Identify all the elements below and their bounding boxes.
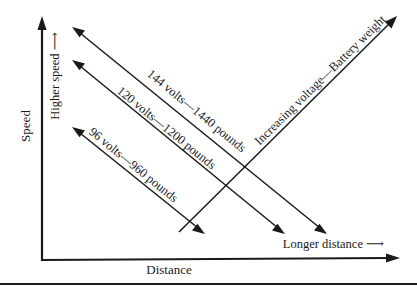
line-144-label: 144 volts—1440 pounds (144, 67, 248, 155)
x-axis-label: Distance (146, 262, 192, 277)
line-144-volts: 144 volts—1440 pounds (72, 27, 327, 234)
speed-distance-diagram: Speed Distance Higher speed ⟶ Longer dis… (0, 0, 417, 287)
trend-label: Increasing voltage—Battery weight (252, 12, 389, 148)
y-axis-arrow-icon (38, 16, 47, 30)
x-axis-arrow-icon (386, 254, 400, 263)
longer-distance-label: Longer distance ⟶ (283, 237, 384, 251)
y-axis-label: Speed (18, 110, 33, 142)
x-axis (41, 258, 390, 260)
higher-speed-label: Higher speed ⟶ (48, 32, 62, 119)
